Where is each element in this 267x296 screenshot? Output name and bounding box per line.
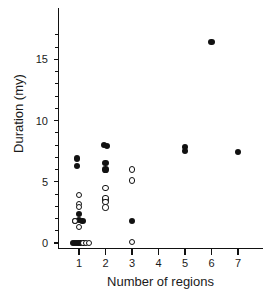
y-axis-line [58, 8, 59, 249]
x-tick-label: 5 [175, 258, 195, 268]
y-tick-minor [55, 47, 59, 48]
x-tick-label: 3 [122, 258, 142, 268]
y-tick-label: 0 [26, 238, 48, 248]
data-point-open [129, 177, 135, 183]
y-tick-label: 5 [26, 177, 48, 187]
x-tick-major [131, 249, 132, 255]
data-point-open [76, 204, 82, 210]
x-tick-label: 1 [69, 258, 89, 268]
data-point-open [102, 204, 108, 210]
data-point-filled [129, 218, 135, 224]
data-point-filled [74, 163, 80, 169]
data-point-filled [76, 211, 82, 217]
data-point-filled [235, 149, 241, 155]
data-point-open [129, 239, 135, 245]
x-tick-label: 2 [96, 258, 116, 268]
data-point-filled [102, 166, 108, 172]
data-point-filled [79, 218, 85, 224]
x-axis-line [58, 248, 263, 249]
x-tick-major [184, 249, 185, 255]
data-point-open [129, 166, 135, 172]
y-tick-minor [55, 71, 59, 72]
x-tick-major [105, 249, 106, 255]
data-point-open [86, 240, 92, 246]
y-tick-major [54, 120, 60, 121]
y-tick-minor [55, 96, 59, 97]
x-tick-major [78, 249, 79, 255]
y-tick-minor [55, 132, 59, 133]
x-tick-label: 6 [202, 258, 222, 268]
y-tick-minor [55, 218, 59, 219]
y-tick-minor [55, 108, 59, 109]
y-tick-minor [55, 34, 59, 35]
x-tick-major [211, 249, 212, 255]
y-axis-title: Duration (my) [11, 44, 26, 184]
y-tick-minor [55, 157, 59, 158]
x-tick-label: 4 [149, 258, 169, 268]
y-tick-major [54, 242, 60, 243]
y-tick-major [54, 181, 60, 182]
y-tick-minor [55, 145, 59, 146]
data-point-open [76, 224, 82, 230]
y-tick-minor [55, 83, 59, 84]
data-point-open [102, 185, 108, 191]
y-tick-minor [55, 206, 59, 207]
x-tick-major [158, 249, 159, 255]
y-tick-minor [55, 194, 59, 195]
data-point-filled [104, 143, 110, 149]
y-tick-major [54, 59, 60, 60]
x-tick-major [237, 249, 238, 255]
y-tick-minor [55, 230, 59, 231]
data-point-filled [182, 148, 188, 154]
data-point-open [76, 192, 82, 198]
data-point-filled [208, 39, 214, 45]
scatter-plot-figure: Duration (my) Number of regions 051015 1… [0, 0, 267, 296]
y-tick-label: 10 [26, 116, 48, 126]
y-tick-label: 15 [26, 54, 48, 64]
y-tick-minor [55, 169, 59, 170]
x-axis-title: Number of regions [58, 274, 263, 289]
data-point-filled [74, 155, 80, 161]
x-tick-label: 7 [228, 258, 248, 268]
